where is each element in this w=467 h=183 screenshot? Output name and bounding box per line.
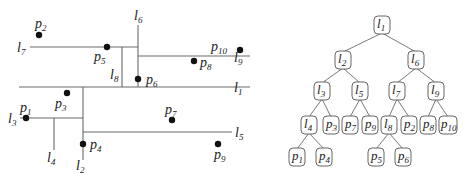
label-subscript: 8: [430, 123, 435, 133]
tree-node-p3: p3: [323, 116, 339, 134]
label-subscript: 1: [299, 155, 304, 165]
tree-node-p5: p5: [368, 148, 384, 166]
label-base: p: [34, 16, 42, 31]
label-subscript: 2: [411, 123, 416, 133]
point-label-p5: p5: [93, 49, 106, 66]
label-subscript: 9: [435, 89, 440, 99]
label-subscript: 10: [448, 123, 458, 133]
label-subscript: 4: [326, 155, 331, 165]
tree-edge-l4-p4: [309, 133, 324, 149]
tree-node-p2: p2: [401, 116, 417, 134]
tree-node-l6: l6: [408, 51, 424, 69]
label-subscript: 1: [27, 107, 32, 117]
label-subscript: 6: [415, 58, 420, 68]
point-p5: [104, 44, 110, 50]
tree-node-l4: l4: [301, 116, 317, 134]
point-p4: [80, 141, 86, 147]
label-subscript: 9: [221, 154, 226, 164]
label-subscript: 1: [238, 87, 243, 97]
tree-nodes: l1l2l6l3l5l7l9l4p3p7p9l8p2p8p10p1p4p5p6: [289, 16, 457, 166]
partition-labels: l1l2l3l4l5l6l7l8l9p1p2p3p4p5p6p7p8p9p10: [8, 8, 244, 175]
point-label-p2: p2: [34, 16, 47, 33]
line-label-l4: l4: [47, 150, 56, 167]
tree-node-p1: p1: [289, 148, 305, 166]
line-label-l1: l1: [234, 80, 242, 97]
label-subscript: 7: [396, 89, 401, 99]
label-base: p: [54, 96, 62, 111]
point-label-p3: p3: [54, 96, 67, 113]
point-label-p6: p6: [145, 72, 158, 89]
label-base: p: [89, 137, 97, 152]
line-label-l3: l3: [8, 111, 17, 128]
tree-edge-l9-p10: [436, 99, 448, 117]
label-base: p: [164, 102, 172, 117]
tree-node-l9: l9: [428, 82, 444, 100]
tree-node-l5: l5: [352, 82, 368, 100]
line-label-l5: l5: [235, 125, 244, 142]
label-subscript: 5: [101, 56, 106, 66]
label-subscript: 8: [114, 74, 119, 84]
label-base: p: [19, 100, 27, 115]
label-subscript: 2: [80, 165, 85, 175]
label-base: p: [93, 49, 101, 64]
tree-node-p8: p8: [420, 116, 436, 134]
point-p6: [135, 76, 141, 82]
tree-edge-l1-l6: [382, 33, 416, 52]
line-label-l6: l6: [134, 8, 143, 25]
point-label-p7: p7: [164, 102, 177, 119]
tree-node-p4: p4: [316, 148, 332, 166]
tree-edge-l8-p6: [389, 133, 403, 149]
point-label-p8: p8: [199, 55, 212, 72]
label-base: p: [145, 72, 153, 87]
point-p3: [64, 90, 70, 96]
tree-edge-l1-l2: [343, 33, 382, 52]
line-label-l2: l2: [76, 158, 85, 175]
tree-edge-l6-l9: [416, 68, 436, 83]
tree-node-l2: l2: [335, 51, 351, 69]
tree-edge-l7-l8: [389, 99, 397, 117]
tree-node-p9: p9: [362, 116, 378, 134]
label-subscript: 8: [207, 62, 212, 72]
label-subscript: 10: [218, 46, 228, 56]
point-label-p1: p1: [19, 100, 32, 117]
tree-edge-l8-p5: [376, 133, 389, 149]
diagram-canvas: l1l2l3l4l5l6l7l8l9p1p2p3p4p5p6p7p8p9p10 …: [0, 0, 467, 183]
label-subscript: 4: [97, 144, 102, 154]
tree-edge-l6-l7: [397, 68, 416, 83]
label-subscript: 7: [21, 47, 26, 57]
tree-node-p10: p10: [439, 116, 457, 134]
tree-edge-l5-p9: [360, 99, 370, 117]
label-subscript: 3: [61, 103, 67, 113]
tree-node-p6: p6: [395, 148, 411, 166]
tree-node-l8: l8: [381, 116, 397, 134]
label-subscript: 3: [11, 118, 17, 128]
label-base: p: [199, 55, 207, 70]
label-subscript: 6: [405, 155, 410, 165]
label-subscript: 6: [153, 79, 158, 89]
label-subscript: 2: [342, 58, 347, 68]
point-label-p4: p4: [89, 137, 102, 154]
label-subscript: 7: [172, 109, 177, 119]
label-subscript: 6: [138, 15, 143, 25]
tree-edge-l3-p3: [322, 99, 331, 117]
label-subscript: 4: [308, 123, 313, 133]
label-subscript: 1: [381, 23, 386, 33]
tree-edge-l9-p8: [428, 99, 436, 117]
tree-edge-l3-l4: [309, 99, 322, 117]
line-label-l8: l8: [110, 67, 119, 84]
tree-edge-l5-p7: [350, 99, 360, 117]
point-label-p9: p9: [213, 147, 226, 164]
tree-node-l3: l3: [314, 82, 330, 100]
label-subscript: 3: [332, 123, 338, 133]
label-subscript: 5: [359, 89, 364, 99]
line-label-l7: l7: [17, 40, 26, 57]
label-base: p: [210, 39, 218, 54]
label-subscript: 2: [42, 23, 47, 33]
point-label-p10: p10: [210, 39, 228, 56]
label-subscript: 9: [238, 57, 243, 67]
label-subscript: 3: [320, 89, 326, 99]
label-subscript: 8: [388, 123, 393, 133]
label-subscript: 9: [372, 123, 377, 133]
tree-edge-l2-l3: [322, 68, 343, 83]
tree-edge-l4-p1: [297, 133, 309, 149]
